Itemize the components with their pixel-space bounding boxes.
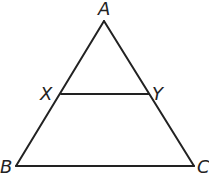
triangle-diagram: A X Y B C [0,0,209,181]
label-c: C [197,156,209,177]
label-x: X [39,83,53,104]
label-b: B [0,156,12,177]
label-a: A [97,0,110,19]
label-y: Y [152,83,165,104]
